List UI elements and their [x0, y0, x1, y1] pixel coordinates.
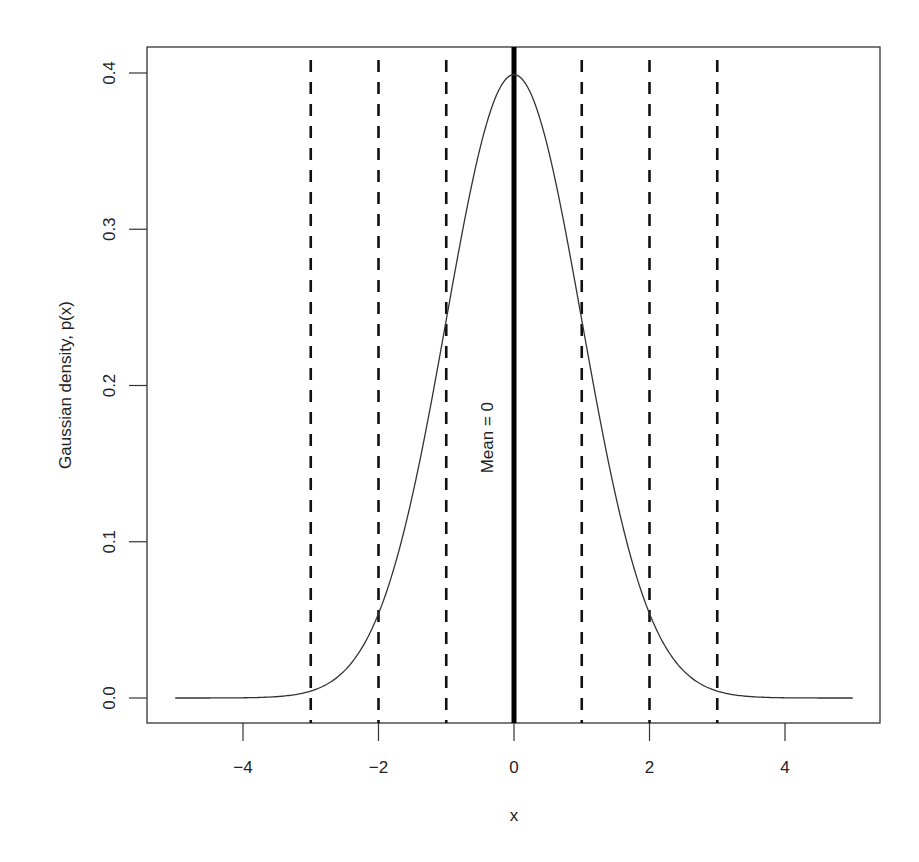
x-tick-label: 4: [780, 758, 789, 777]
x-axis-title: x: [510, 806, 519, 825]
x-tick-label: 2: [645, 758, 654, 777]
y-tick-label: 0.4: [100, 61, 119, 85]
y-tick-label: 0.3: [100, 217, 119, 241]
x-tick-label: −2: [369, 758, 388, 777]
x-tick-label: 0: [509, 758, 518, 777]
y-tick-label: 0.1: [100, 530, 119, 554]
mean-annotation: Mean = 0: [478, 402, 497, 473]
y-axis: 0.00.10.20.30.4: [100, 61, 147, 710]
y-axis-title: Gaussian density, p(x): [56, 301, 75, 469]
x-tick-label: −4: [233, 758, 252, 777]
sd-reference-lines: [311, 47, 718, 723]
x-axis: −4−2024: [233, 723, 789, 777]
y-tick-label: 0.0: [100, 686, 119, 710]
y-tick-label: 0.2: [100, 374, 119, 398]
gaussian-density-chart: −4−2024 0.00.10.20.30.4 x Gaussian densi…: [0, 0, 919, 862]
